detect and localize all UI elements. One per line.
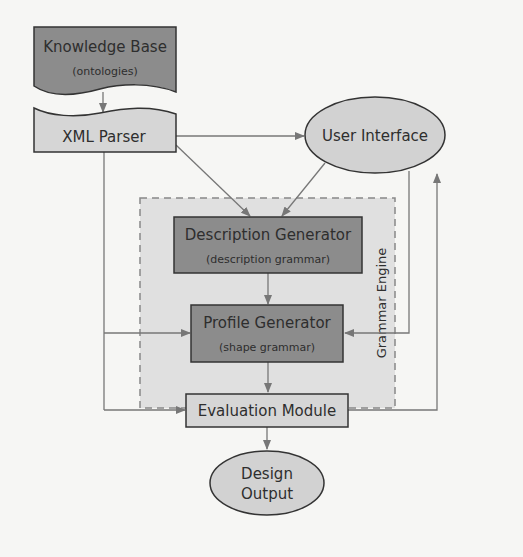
description-generator-title: Description Generator (185, 226, 352, 244)
node-knowledge-base: Knowledge Base (ontologies) (34, 27, 176, 94)
node-profile-generator: Profile Generator (shape grammar) (191, 305, 343, 362)
node-description-generator: Description Generator (description gramm… (174, 217, 362, 273)
xml-parser-title: XML Parser (62, 128, 146, 146)
node-evaluation-module: Evaluation Module (186, 394, 348, 427)
user-interface-title: User Interface (322, 127, 428, 145)
node-design-output: Design Output (210, 451, 324, 515)
profile-generator-subtitle: (shape grammar) (219, 341, 315, 354)
knowledge-base-subtitle: (ontologies) (72, 65, 138, 78)
design-output-line2: Output (241, 485, 293, 503)
evaluation-module-title: Evaluation Module (198, 402, 336, 420)
grammar-engine-label: Grammar Engine (374, 248, 389, 359)
knowledge-base-title: Knowledge Base (43, 38, 167, 56)
design-output-line1: Design (241, 465, 293, 483)
node-xml-parser: XML Parser (34, 108, 176, 152)
profile-generator-title: Profile Generator (203, 314, 331, 332)
architecture-diagram: Grammar Engine Knowledge Base (ontologie… (0, 0, 523, 557)
node-user-interface: User Interface (305, 97, 445, 173)
description-generator-subtitle: (description grammar) (206, 253, 330, 266)
